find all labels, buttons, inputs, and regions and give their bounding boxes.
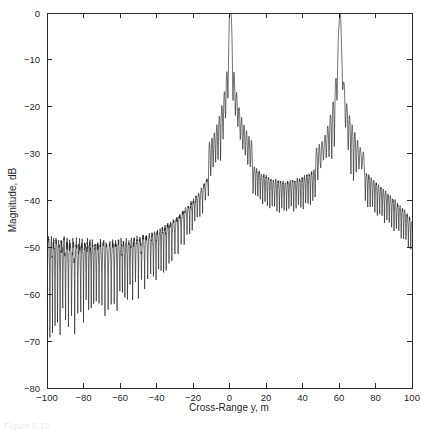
- y-tick-label: −50: [24, 242, 40, 253]
- x-tick-label: −80: [75, 392, 91, 403]
- figure-panel: −100−80−60−40−20020406080100 0−10−20−30−…: [0, 0, 431, 433]
- x-tick-label: 60: [334, 392, 345, 403]
- caption-fragment: Figure 6.12: [4, 421, 194, 431]
- x-tick-label: −100: [36, 392, 57, 403]
- y-tick-label: −60: [24, 289, 40, 300]
- y-tick-label: −10: [24, 54, 40, 65]
- y-tick-label: −70: [24, 336, 40, 347]
- magnitude-trace: [47, 13, 412, 338]
- x-tick-label: −60: [112, 392, 128, 403]
- tick-marks-group: [47, 13, 412, 388]
- y-axis-tick-labels: 0−10−20−30−40−50−60−70−80: [24, 8, 40, 394]
- y-axis-title: Magnitude, dB: [7, 167, 18, 232]
- y-tick-label: −30: [24, 148, 40, 159]
- y-tick-label: 0: [35, 8, 40, 19]
- data-series-group: [47, 13, 412, 338]
- x-tick-label: 80: [370, 392, 381, 403]
- x-axis-title: Cross-Range y, m: [189, 402, 269, 413]
- y-tick-label: −40: [24, 195, 40, 206]
- x-tick-label: 100: [404, 392, 420, 403]
- y-tick-label: −20: [24, 101, 40, 112]
- cross-range-magnitude-chart: −100−80−60−40−20020406080100 0−10−20−30−…: [0, 0, 431, 433]
- x-tick-label: −40: [148, 392, 164, 403]
- axis-frame: [47, 13, 412, 388]
- y-tick-label: −80: [24, 383, 40, 394]
- x-tick-label: 40: [297, 392, 308, 403]
